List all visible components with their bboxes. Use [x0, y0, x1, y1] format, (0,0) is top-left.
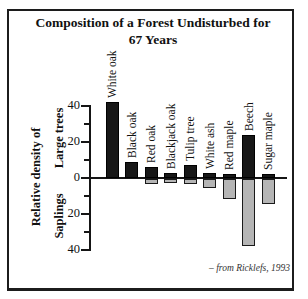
bar-large-trees: [203, 173, 216, 178]
bar-saplings: [145, 179, 158, 184]
bar-category-label: Beech: [243, 102, 255, 131]
y-axis-major-tick: [81, 141, 90, 143]
bar-category-label: Black oak: [126, 111, 138, 157]
y-axis-minor-tick: [84, 231, 90, 233]
bar-saplings: [184, 179, 197, 184]
bar-large-trees: [223, 174, 236, 178]
y-axis-tick-label: 40: [58, 242, 80, 257]
y-axis-major-tick: [81, 105, 90, 107]
bar-saplings: [164, 179, 177, 183]
y-axis-minor-tick: [84, 195, 90, 197]
y-axis-label-main: Relative density of: [29, 128, 44, 227]
bar-large-trees: [145, 167, 158, 178]
bar-large-trees: [184, 165, 197, 178]
bar-saplings: [262, 179, 275, 204]
bar-large-trees: [262, 174, 275, 178]
bar-category-label: Red oak: [145, 125, 157, 163]
y-axis-tick-label: 20: [58, 206, 80, 221]
bar-large-trees: [125, 162, 138, 178]
bar-category-label: White oak: [106, 51, 118, 99]
bar-large-trees: [164, 173, 177, 178]
bar-large-trees: [242, 135, 255, 178]
figure-forest-composition: Composition of a Forest Undisturbed for …: [0, 0, 308, 299]
y-axis-major-tick: [81, 177, 90, 179]
bar-category-label: Sugar maple: [262, 113, 274, 171]
y-axis-tick-label: 20: [58, 134, 80, 149]
source-attribution: – from Ricklefs, 1993: [209, 263, 290, 273]
y-axis-minor-tick: [84, 159, 90, 161]
bar-saplings: [242, 179, 255, 246]
chart-area: Relative density of Large trees Saplings…: [0, 0, 308, 299]
bar-saplings: [203, 179, 216, 188]
bar-large-trees: [106, 102, 119, 178]
y-axis-major-tick: [81, 249, 90, 251]
bar-category-label: White ash: [204, 122, 216, 168]
y-axis-minor-tick: [84, 123, 90, 125]
bar-category-label: Blackjack oak: [165, 103, 177, 168]
y-axis-tick-label: 0: [58, 170, 80, 185]
bar-category-label: Red maple: [223, 121, 235, 171]
y-axis-tick-label: 40: [58, 98, 80, 113]
bar-category-label: Tulip tree: [184, 117, 196, 162]
bar-saplings: [223, 179, 236, 199]
y-axis-major-tick: [81, 213, 90, 215]
